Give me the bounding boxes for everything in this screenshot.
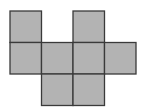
grid-cell-r0-c0	[10, 11, 42, 43]
grid-cell-r1-c2	[73, 43, 105, 75]
net-cells	[10, 11, 136, 106]
grid-cell-r1-c3	[105, 43, 137, 75]
grid-cell-r0-c2	[73, 11, 105, 43]
polyomino-net-diagram	[0, 0, 143, 112]
grid-cell-r1-c1	[42, 43, 74, 75]
grid-cell-r2-c1	[42, 74, 74, 106]
grid-cell-r2-c2	[73, 74, 105, 106]
grid-cell-r1-c0	[10, 43, 42, 75]
